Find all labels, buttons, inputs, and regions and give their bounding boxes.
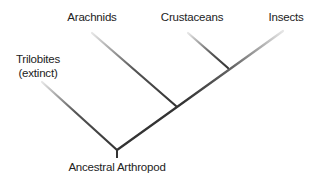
taxon-label-crustaceans: Crustaceans — [161, 10, 223, 24]
branch-crustaceans — [188, 33, 228, 68]
branch-trilobites — [42, 82, 117, 150]
branch-insects-main — [117, 31, 283, 150]
cladogram-lines — [0, 0, 312, 182]
branch-arachnids — [92, 33, 176, 106]
trilobites-label-line2: (extinct) — [16, 66, 60, 80]
root-label: Ancestral Arthropod — [68, 160, 165, 174]
taxon-label-arachnids: Arachnids — [67, 10, 116, 24]
taxon-label-trilobites: Trilobites (extinct) — [16, 52, 60, 80]
taxon-label-insects: Insects — [268, 10, 303, 24]
trilobites-label-line1: Trilobites — [16, 52, 60, 66]
